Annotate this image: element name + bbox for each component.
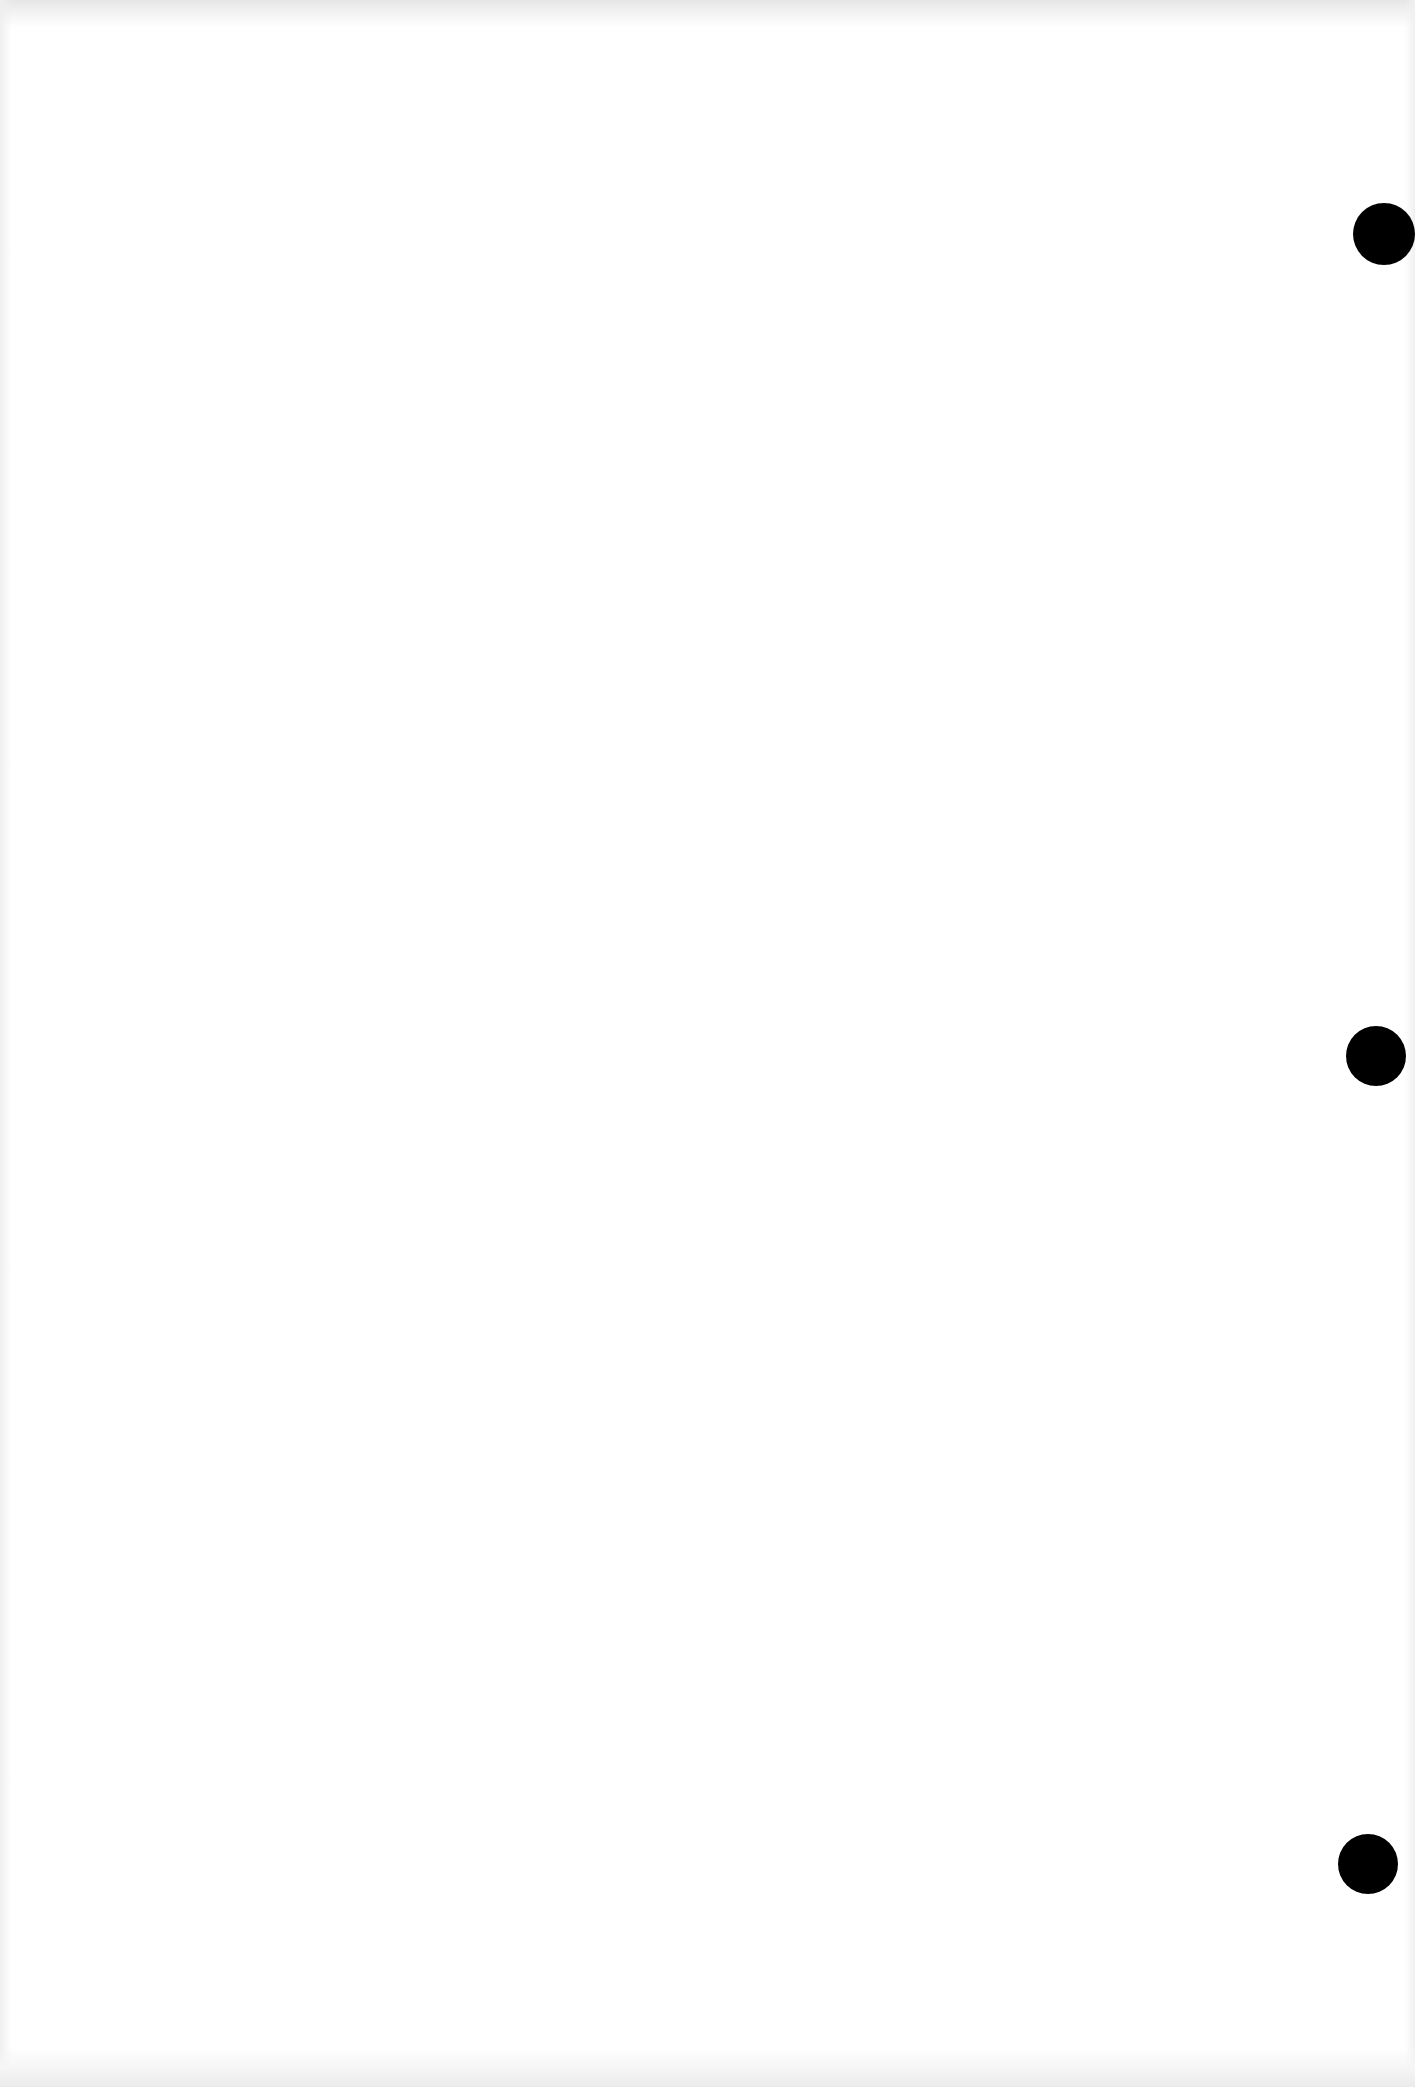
punch-hole-icon <box>1338 1834 1398 1894</box>
punch-hole-icon <box>1353 203 1415 265</box>
scan-shadow-top <box>0 0 1415 28</box>
scan-shadow-bottom <box>0 2047 1415 2087</box>
scan-shadow-right <box>1405 0 1415 2087</box>
scan-shadow-left <box>0 0 12 2087</box>
punch-hole-icon <box>1346 1026 1406 1086</box>
blank-page <box>0 0 1415 2087</box>
